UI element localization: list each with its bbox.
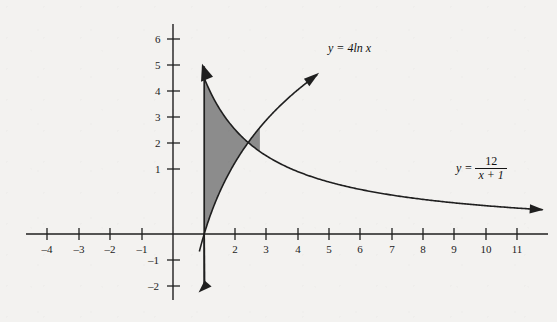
fraction: 12 x + 1 [475, 155, 506, 181]
y-tick-label: 3 [155, 112, 161, 123]
x-tick-label: 2 [232, 244, 238, 255]
curve-top-arrow [201, 64, 213, 82]
y-tick-label: 5 [155, 60, 161, 71]
y-tick-label: 4 [155, 86, 161, 97]
fraction-denominator: x + 1 [475, 168, 506, 182]
x-tick-label: 5 [326, 244, 332, 255]
x-tick-label: 10 [481, 244, 492, 255]
curve-label-4lnx: y = 4ln x [328, 42, 371, 55]
figure-container: –4 –3 –2 –1 2 3 4 5 6 7 8 9 10 11 6 5 4 … [0, 0, 557, 322]
x-tick-label: 4 [295, 244, 301, 255]
curve-label-4lnx-text: y = 4ln x [328, 41, 371, 55]
y-tick-label: 2 [155, 138, 161, 149]
curve-label-lead: y = [456, 161, 472, 175]
x-tick-label: –4 [42, 244, 53, 255]
x-tick-label: 6 [357, 244, 363, 255]
fraction-numerator: 12 [475, 155, 506, 168]
x-tick-label: –2 [105, 244, 116, 255]
x-tick-label: 8 [420, 244, 426, 255]
x-tick-label: 7 [389, 244, 395, 255]
x-tick-label: 11 [512, 244, 523, 255]
x-tick-label: –1 [137, 244, 148, 255]
x-tick-label: –3 [74, 244, 85, 255]
x-tick-label: 9 [451, 244, 457, 255]
y-tick-label: 1 [155, 164, 161, 175]
y-tick-label: –1 [148, 255, 159, 266]
y-tick-label: –2 [148, 281, 159, 292]
y-tick-label: 6 [155, 34, 161, 45]
x-tick-label: 3 [263, 244, 269, 255]
curve-label-12-over-x-plus-1: y = 12 x + 1 [456, 156, 507, 182]
